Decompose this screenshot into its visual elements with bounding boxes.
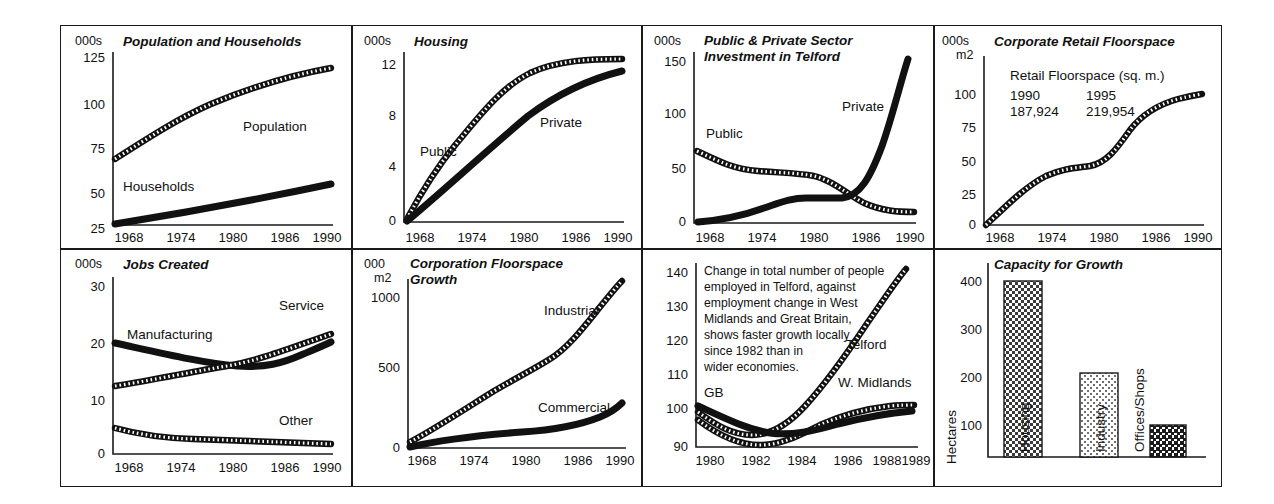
y-tick-140: 140	[666, 265, 688, 280]
y-tick-130: 130	[666, 299, 688, 314]
y-tick-120: 120	[666, 333, 688, 348]
x-tick-1968: 1968	[115, 230, 144, 245]
x-tick-1980: 1980	[219, 460, 248, 475]
y-tick-50: 50	[962, 154, 976, 169]
y-tick-8: 8	[389, 108, 396, 123]
x-tick-1986: 1986	[271, 230, 300, 245]
y-tick-20: 20	[91, 336, 105, 351]
chart-corporation-floorspace-growth: 000 m2 Corporation Floorspace Growth 100…	[352, 249, 641, 488]
y-tick-200: 200	[960, 370, 982, 385]
y-tick-100: 100	[960, 418, 982, 433]
inset-table-val-1995: 219,954	[1086, 104, 1135, 119]
x-tick-1974: 1974	[167, 230, 196, 245]
y-tick-400: 400	[960, 274, 982, 289]
y-tick-25: 25	[962, 187, 976, 202]
series-label-telford: Telford	[846, 337, 887, 352]
x-tick-1974: 1974	[460, 453, 489, 468]
series-population-bead-core	[115, 68, 331, 159]
series-label-commercial: Commercial	[538, 400, 610, 415]
y-tick-0: 0	[389, 213, 396, 228]
x-tick-1980: 1980	[696, 453, 725, 468]
y-tick-500: 500	[378, 360, 400, 375]
inset-table-col-1990: 1990	[1010, 88, 1040, 103]
panel-title-line1: Corporation Floorspace	[410, 256, 564, 271]
panel-title: Corporate Retail Floorspace	[994, 34, 1175, 49]
x-tick-1990: 1990	[313, 460, 342, 475]
y-tick-0: 0	[969, 217, 976, 232]
svg-text:Midlands and Great Britain,: Midlands and Great Britain,	[704, 312, 852, 326]
y-tick-110: 110	[667, 367, 688, 382]
y-unit-label-000s: 000s	[942, 34, 969, 48]
inset-table-col-1995: 1995	[1086, 88, 1116, 103]
panel-title-line2: Investment in Telford	[704, 49, 841, 64]
series-label-manufacturing: Manufacturing	[127, 327, 213, 342]
y-tick-0: 0	[393, 440, 400, 455]
panel-title: Capacity for Growth	[994, 257, 1123, 272]
x-tick-1974: 1974	[167, 460, 196, 475]
series-label-public: Public	[420, 144, 457, 159]
chart-public-private-investment: 000s Public & Private Sector Investment …	[642, 26, 933, 248]
y-tick-10: 10	[91, 393, 105, 408]
panel-title: Jobs Created	[123, 257, 209, 272]
series-label-gb: GB	[704, 385, 724, 400]
x-tick-1990: 1990	[896, 230, 925, 245]
x-tick-1974: 1974	[458, 230, 487, 245]
x-tick-1986: 1986	[852, 230, 881, 245]
x-tick-1986: 1986	[564, 453, 593, 468]
svg-text:employed in Telford, against: employed in Telford, against	[704, 280, 856, 294]
y-unit-label-m2: m2	[956, 48, 973, 62]
y-unit-label-000: 000	[364, 257, 385, 271]
series-label-private: Private	[540, 115, 582, 130]
y-unit-label: 000s	[364, 34, 391, 48]
y-tick-125: 125	[83, 50, 105, 65]
series-population-line	[115, 68, 331, 159]
series-label-private: Private	[842, 99, 884, 114]
y-axis-title-hectares: Hectares	[944, 410, 959, 464]
chart-population-households: 000s Population and Households 125 100 7…	[61, 26, 351, 248]
x-tick-1980: 1980	[512, 453, 541, 468]
x-tick-1968: 1968	[408, 453, 437, 468]
x-tick-1968: 1968	[115, 460, 144, 475]
y-unit-label: 000s	[654, 34, 681, 48]
chart-jobs-created: 000s Jobs Created 30 20 10 0 Manufacturi…	[61, 249, 351, 488]
chart-employment-change-index: 140 130 120 110 100 90 Change in total n…	[642, 249, 933, 488]
x-tick-1984: 1984	[788, 453, 817, 468]
x-tick-1968: 1968	[986, 230, 1015, 245]
panel-title-line1: Public & Private Sector	[704, 33, 853, 48]
bar-label-housing: Housing	[1017, 402, 1032, 452]
x-tick-1982: 1982	[742, 453, 771, 468]
series-label-public: Public	[706, 126, 743, 141]
y-tick-1000: 1000	[371, 290, 400, 305]
series-label-households: Households	[123, 179, 195, 194]
y-tick-100: 100	[83, 97, 105, 112]
series-wmidlands-line	[698, 405, 914, 445]
svg-text:wider economies.: wider economies.	[703, 360, 799, 374]
series-label-wmidlands: W. Midlands	[838, 375, 912, 390]
bar-offices-shops	[1150, 425, 1186, 457]
inset-table-val-1990: 187,924	[1010, 104, 1059, 119]
x-tick-1980: 1980	[510, 230, 539, 245]
x-tick-1980: 1980	[219, 230, 248, 245]
series-public-line	[697, 151, 914, 212]
bar-label-industry: Industry	[1093, 404, 1108, 452]
x-tick-1968: 1968	[406, 230, 435, 245]
x-tick-1988: 1988	[873, 453, 902, 468]
x-tick-1990: 1990	[313, 230, 342, 245]
series-public-bead-core	[697, 151, 914, 212]
panel-title: Population and Households	[123, 34, 302, 49]
svg-text:shows faster growth locally: shows faster growth locally	[704, 328, 851, 342]
y-tick-25: 25	[91, 221, 105, 236]
chart-housing: 000s Housing 12 8 4 0 Public Private 196…	[352, 26, 641, 248]
x-tick-1986: 1986	[271, 460, 300, 475]
chart-grid-frame: 000s Population and Households 125 100 7…	[60, 25, 1222, 487]
series-label-service: Service	[279, 298, 324, 313]
x-tick-1989: 1989	[902, 453, 931, 468]
svg-text:Change in total number of peop: Change in total number of people	[704, 264, 884, 278]
x-tick-1990: 1990	[604, 230, 633, 245]
y-unit-label: 000s	[75, 34, 102, 48]
y-tick-30: 30	[91, 279, 105, 294]
x-tick-1990: 1990	[1184, 230, 1213, 245]
chart-corporate-retail-floorspace: 000s m2 Corporate Retail Floorspace Reta…	[934, 26, 1223, 248]
y-tick-0: 0	[98, 446, 105, 461]
y-tick-50: 50	[91, 186, 105, 201]
